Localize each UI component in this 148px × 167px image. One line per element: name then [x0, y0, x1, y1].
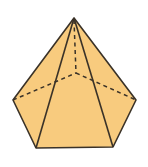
pentagonal-pyramid-diagram: [0, 0, 148, 167]
